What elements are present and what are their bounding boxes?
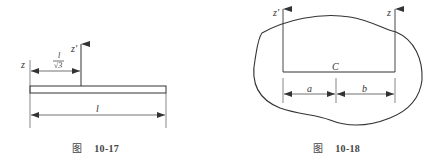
rod-diagram — [0, 0, 220, 160]
rod — [30, 86, 166, 93]
offset-denominator: √3 — [51, 62, 65, 70]
z-axis-label: z — [21, 60, 25, 70]
caption-prefix: 图 — [72, 143, 82, 154]
body-diagram — [220, 0, 439, 160]
figure-caption: 图10-17 — [72, 140, 119, 155]
z-axis-label: z — [387, 8, 391, 18]
caption-number: 10-18 — [335, 143, 360, 154]
offset-numerator: l — [52, 52, 66, 60]
figure-caption: 图10-18 — [313, 140, 360, 155]
dimension-b-label: b — [362, 84, 367, 94]
caption-number: 10-17 — [94, 143, 119, 154]
caption-prefix: 图 — [313, 143, 323, 154]
dimension-a-label: a — [307, 84, 312, 94]
z-prime-axis-label: z' — [273, 8, 279, 18]
length-label: l — [96, 104, 99, 114]
figure-10-18: z' z C a b 图10-18 — [220, 0, 439, 160]
figure-10-17: z z' l √3 l 图10-17 — [0, 0, 220, 160]
z-prime-axis-label: z' — [71, 44, 77, 54]
center-label: C — [332, 62, 339, 72]
